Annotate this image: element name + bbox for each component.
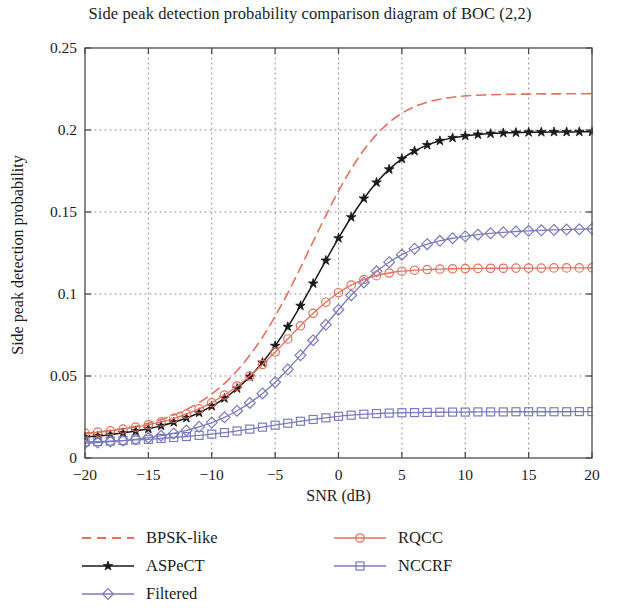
y-tick-label: 0.2 [14, 121, 77, 139]
y-tick-label: 0.05 [14, 367, 77, 385]
y-tick-label: 0.15 [14, 203, 77, 221]
data-marker [296, 301, 306, 310]
chart-figure: Side peak detection probability comparis… [0, 0, 620, 613]
legend-sample-diamond-icon [80, 584, 136, 604]
x-tick-label: 0 [335, 466, 343, 484]
x-tick-label: 20 [584, 466, 600, 484]
data-marker [422, 140, 432, 149]
data-marker [346, 212, 356, 221]
y-tick-label: 0.25 [14, 39, 77, 57]
data-marker [511, 128, 521, 137]
x-tick-label: 10 [458, 466, 474, 484]
data-marker [334, 233, 344, 242]
legend-label: RQCC [398, 528, 443, 548]
legend-label: BPSK-like [146, 528, 218, 548]
legend-sample-circle-icon [332, 528, 388, 548]
legend-label: NCCRF [398, 556, 452, 576]
legend-sample-square-icon [332, 556, 388, 576]
data-marker [283, 322, 293, 331]
legend-line-sample [80, 528, 136, 548]
x-tick-label: −15 [136, 466, 160, 484]
data-marker [562, 127, 572, 136]
legend-entry-aspect[interactable]: ASPeCT [80, 552, 218, 580]
legend-entry-bpsk-like[interactable]: BPSK-like [80, 524, 218, 552]
legend-line-sample [332, 528, 388, 548]
legend-entry-nccrf[interactable]: NCCRF [332, 552, 452, 580]
legend-column-left: BPSK-likeASPeCTFiltered [80, 524, 218, 608]
data-marker [308, 279, 318, 288]
legend-entry-rqcc[interactable]: RQCC [332, 524, 452, 552]
data-marker [103, 561, 113, 570]
data-marker [321, 256, 331, 265]
x-axis-label: SNR (dB) [85, 487, 592, 505]
data-marker [435, 136, 445, 145]
legend-column-right: RQCCNCCRF [332, 524, 452, 580]
chart-legend: BPSK-likeASPeCTFiltered RQCCNCCRF [80, 524, 550, 610]
x-tick-label: −5 [267, 466, 284, 484]
legend-label: ASPeCT [146, 556, 205, 576]
x-tick-label: −10 [200, 466, 224, 484]
data-marker [448, 133, 458, 142]
plot-area [0, 26, 620, 486]
data-marker [524, 127, 534, 136]
data-marker [575, 127, 585, 136]
data-marker [537, 127, 547, 136]
x-tick-label: 5 [398, 466, 406, 484]
y-tick-label: 0 [14, 449, 77, 467]
gridlines [85, 48, 592, 458]
legend-line-sample [80, 556, 136, 576]
chart-title: Side peak detection probability comparis… [0, 4, 620, 24]
legend-line-sample [332, 556, 388, 576]
legend-sample-star-icon [80, 556, 136, 576]
legend-line-sample [80, 584, 136, 604]
data-marker [486, 129, 496, 138]
y-tick-label: 0.1 [14, 285, 77, 303]
x-tick-label: 15 [521, 466, 537, 484]
data-marker [473, 130, 483, 139]
legend-label: Filtered [146, 584, 197, 604]
x-tick-label: −20 [73, 466, 97, 484]
data-marker [549, 127, 559, 136]
data-marker [499, 128, 509, 137]
legend-entry-filtered[interactable]: Filtered [80, 580, 218, 608]
legend-sample-none-icon [80, 528, 136, 548]
